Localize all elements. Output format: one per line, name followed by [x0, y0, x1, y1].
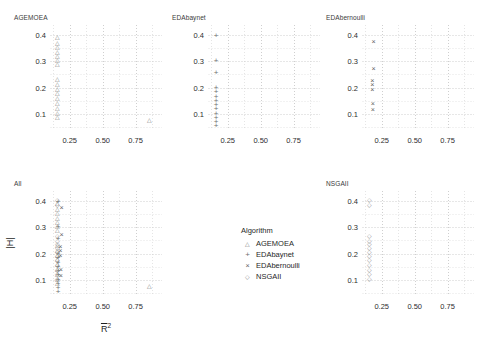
y-tick-label: 0.4 — [348, 196, 358, 205]
panel-all: All ◇△+◇△△×△△△+△×◇+◇◇△×◇△×◇+△×◇+△◇+△◇+△◇… — [14, 180, 164, 310]
data-point-triangle: △ — [147, 283, 152, 289]
gridline-horizontal-minor — [362, 214, 474, 215]
y-tick-label: 0.3 — [36, 223, 46, 232]
gridline-horizontal — [362, 254, 474, 255]
plotarea-agemoea: △△△△△△△△△△△△△△△△△ — [50, 24, 162, 130]
legend-marker-icon: + — [241, 249, 254, 260]
x-tick-label: 0.25 — [62, 302, 77, 311]
panel-agemoea: AGEMOEA △△△△△△△△△△△△△△△△△ 0.250.500.750.… — [14, 14, 164, 144]
gridline-horizontal-minor — [50, 214, 162, 215]
y-tick-label: 0.1 — [348, 276, 358, 285]
gridline-horizontal-minor — [50, 74, 162, 75]
gridline-horizontal-minor — [208, 127, 320, 128]
legend-item-label: AGEMOEA — [256, 239, 294, 248]
y-tick-label: 0.4 — [36, 196, 46, 205]
plotarea-edabernoulli: ××××××× — [362, 24, 474, 130]
gridline-horizontal — [362, 280, 474, 281]
panel-title-all: All — [14, 180, 22, 187]
panel-title-edabernoulli: EDAbernoulli — [326, 14, 365, 21]
gridline-horizontal-minor — [50, 240, 162, 241]
legend-item-nsgaii[interactable]: ◇NSGAII — [241, 271, 300, 282]
y-tick-label: 0.4 — [348, 30, 358, 39]
data-point-cross: × — [59, 204, 63, 211]
y-tick-label: 0.3 — [348, 57, 358, 66]
gridline-horizontal — [362, 227, 474, 228]
gridline-horizontal — [362, 201, 474, 202]
axis-label-x-sup: 2 — [107, 322, 111, 329]
gridline-horizontal-minor — [362, 48, 474, 49]
y-tick-label: 0.4 — [36, 30, 46, 39]
y-tick-label: 0.3 — [36, 57, 46, 66]
panel-edabernoulli: EDAbernoulli ××××××× 0.250.500.750.10.20… — [326, 14, 476, 144]
gridline-horizontal — [208, 61, 320, 62]
gridline-horizontal-minor — [208, 48, 320, 49]
data-point-cross: × — [371, 38, 375, 45]
axis-label-y: |H| — [5, 235, 15, 251]
legend-marker-icon: △ — [241, 238, 254, 249]
gridline-horizontal — [208, 35, 320, 36]
legend-item-edabaynet[interactable]: +EDAbaynet — [241, 249, 300, 260]
data-point-plus: + — [214, 69, 219, 77]
y-tick-label: 0.1 — [194, 110, 204, 119]
gridline-horizontal — [50, 201, 162, 202]
x-tick-label: 0.25 — [220, 136, 235, 145]
x-tick-label: 0.50 — [407, 302, 422, 311]
x-tick-label: 0.25 — [374, 302, 389, 311]
data-point-plus: + — [56, 288, 61, 296]
x-tick-label: 0.25 — [374, 136, 389, 145]
x-tick-label: 0.50 — [407, 136, 422, 145]
y-tick-label: 0.2 — [194, 83, 204, 92]
data-point-triangle: △ — [55, 61, 60, 67]
data-point-cross: × — [370, 86, 374, 93]
gridline-horizontal — [362, 61, 474, 62]
gridline-horizontal — [208, 114, 320, 115]
gridline-horizontal — [362, 114, 474, 115]
legend-item-agemoea[interactable]: △AGEMOEA — [241, 238, 300, 249]
gridline-horizontal-minor — [362, 240, 474, 241]
data-point-cross: × — [371, 106, 375, 113]
legend-item-label: NSGAII — [256, 272, 281, 281]
data-point-plus: + — [214, 32, 219, 40]
y-tick-label: 0.3 — [348, 223, 358, 232]
x-tick-label: 0.75 — [440, 302, 455, 311]
data-point-triangle: △ — [55, 114, 60, 120]
data-point-plus: + — [214, 57, 219, 65]
x-tick-label: 0.25 — [62, 136, 77, 145]
gridline-horizontal-minor — [50, 293, 162, 294]
x-tick-label: 0.50 — [95, 136, 110, 145]
legend-marker-icon: ◇ — [241, 271, 254, 282]
gridline-horizontal-minor — [50, 48, 162, 49]
gridline-horizontal — [362, 88, 474, 89]
x-tick-label: 0.50 — [253, 136, 268, 145]
panel-title-edabaynet: EDAbaynet — [172, 14, 206, 21]
gridline-horizontal — [50, 61, 162, 62]
gridline-horizontal — [50, 280, 162, 281]
y-tick-label: 0.1 — [36, 276, 46, 285]
faceted-scatter-figure: AGEMOEA △△△△△△△△△△△△△△△△△ 0.250.500.750.… — [0, 0, 480, 341]
axis-label-x: R2 — [50, 322, 162, 334]
data-point-diamond: ◇ — [367, 202, 372, 208]
gridline-horizontal-minor — [362, 74, 474, 75]
y-tick-label: 0.3 — [194, 57, 204, 66]
panel-nsgaii: NSGAII ◇◇◇◇◇◇◇◇◇◇◇◇◇ 0.250.500.750.10.20… — [326, 180, 476, 310]
gridline-horizontal — [50, 227, 162, 228]
gridline-horizontal-minor — [362, 267, 474, 268]
gridline-horizontal-minor — [362, 293, 474, 294]
legend-item-edabernoulli[interactable]: ×EDAbernoulli — [241, 260, 300, 271]
y-tick-label: 0.4 — [194, 30, 204, 39]
x-tick-label: 0.75 — [128, 302, 143, 311]
gridline-horizontal-minor — [50, 127, 162, 128]
gridline-horizontal — [50, 88, 162, 89]
legend: Algorithm △AGEMOEA+EDAbaynet×EDAbernoull… — [241, 226, 300, 282]
x-tick-label: 0.50 — [95, 302, 110, 311]
panel-title-nsgaii: NSGAII — [326, 180, 349, 187]
gridline-horizontal — [50, 114, 162, 115]
y-tick-label: 0.2 — [348, 249, 358, 258]
x-tick-label: 0.75 — [440, 136, 455, 145]
x-tick-label: 0.75 — [286, 136, 301, 145]
plotarea-edabaynet: +++++++++++++ — [208, 24, 320, 130]
gridline-horizontal — [208, 88, 320, 89]
legend-title: Algorithm — [241, 226, 300, 235]
gridline-horizontal-minor — [208, 101, 320, 102]
y-tick-label: 0.2 — [36, 83, 46, 92]
